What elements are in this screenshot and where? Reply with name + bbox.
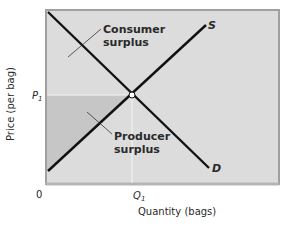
producer-surplus-label-line2: surplus xyxy=(114,143,160,156)
demand-label: D xyxy=(212,162,221,175)
y-axis-title: Price (per bag) xyxy=(5,67,16,141)
equilibrium-point xyxy=(129,92,135,98)
p1-tick-label: P1 xyxy=(32,90,43,103)
supply-label: S xyxy=(208,19,216,32)
consumer-surplus-label-line1: Consumer xyxy=(103,23,166,36)
surplus-chart: S D Consumer surplus Producer surplus P1… xyxy=(0,0,308,229)
q1-tick-label: Q1 xyxy=(133,190,145,203)
producer-surplus-label-line1: Producer xyxy=(114,130,171,143)
consumer-surplus-label-line2: surplus xyxy=(103,36,149,49)
origin-label: 0 xyxy=(36,189,42,200)
x-axis-title: Quantity (bags) xyxy=(138,206,216,217)
